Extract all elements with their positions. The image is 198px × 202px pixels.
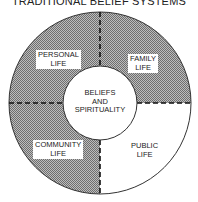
label-public-line2: LIFE xyxy=(131,151,158,160)
label-family-life: FAMILY LIFE xyxy=(128,54,158,73)
center-line3: SPIRITUALITY xyxy=(70,106,130,115)
label-personal-life: PERSONAL LIFE xyxy=(36,50,81,69)
label-community-line2: LIFE xyxy=(35,150,81,159)
label-personal-line2: LIFE xyxy=(38,60,79,69)
label-community-life: COMMUNITY LIFE xyxy=(33,140,83,159)
label-family-line2: LIFE xyxy=(130,64,156,73)
label-beliefs-spirituality: BELIEFS AND SPIRITUALITY xyxy=(70,89,130,115)
label-public-life: PUBLIC LIFE xyxy=(129,141,160,160)
